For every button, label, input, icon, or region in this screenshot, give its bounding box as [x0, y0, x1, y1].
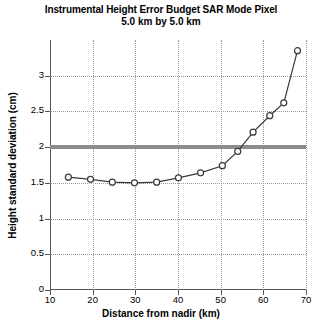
data-point-marker: [235, 148, 241, 154]
x-axis-title: Distance from nadir (km): [0, 308, 322, 319]
data-point-marker: [109, 179, 115, 185]
x-tick-label: 30: [115, 294, 155, 305]
x-tick-label: 10: [30, 294, 70, 305]
data-line: [68, 51, 297, 183]
y-tick-label: 2.5: [10, 104, 44, 115]
x-tick-label: 70: [286, 294, 322, 305]
data-point-marker: [198, 170, 204, 176]
y-tick-label: 0.5: [10, 247, 44, 258]
data-point-marker: [250, 129, 256, 135]
data-point-marker: [175, 175, 181, 181]
data-point-marker: [219, 163, 225, 169]
y-axis-title: Height standard deviation (cm): [7, 56, 18, 276]
y-tick-label: 1: [10, 212, 44, 223]
y-tick-label: 3: [10, 69, 44, 80]
x-tick-label: 50: [201, 294, 241, 305]
data-point-marker: [281, 100, 287, 106]
chart-subtitle: 5.0 km by 5.0 km: [0, 16, 322, 28]
gridline-vertical: [306, 40, 307, 290]
x-tick-label: 60: [243, 294, 283, 305]
data-series-layer: [50, 40, 306, 290]
y-axis-tick: [45, 290, 50, 291]
data-point-marker: [267, 113, 273, 119]
y-tick-label: 1.5: [10, 176, 44, 187]
data-point-marker: [294, 48, 300, 54]
chart-title: Instrumental Height Error Budget SAR Mod…: [0, 4, 322, 16]
data-point-marker: [131, 180, 137, 186]
plot-area: [50, 40, 306, 290]
chart-figure: Instrumental Height Error Budget SAR Mod…: [0, 0, 322, 328]
x-tick-label: 20: [73, 294, 113, 305]
x-tick-label: 40: [158, 294, 198, 305]
data-point-marker: [88, 176, 94, 182]
y-tick-label: 0: [10, 283, 44, 294]
data-point-marker: [154, 179, 160, 185]
y-tick-label: 2: [10, 140, 44, 151]
data-point-marker: [65, 174, 71, 180]
